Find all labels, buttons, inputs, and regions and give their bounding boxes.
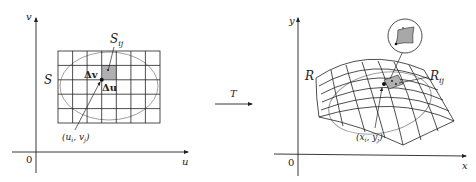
u-axis-label: u	[182, 156, 188, 167]
point-xi-yj	[382, 82, 386, 86]
transformation-t: T	[215, 88, 252, 104]
rij-dot-2	[395, 83, 397, 85]
x-axis-label: x	[462, 160, 468, 171]
point-ui-vj-label: (ui, vj)	[62, 132, 90, 144]
delta-u-label: Δu	[102, 82, 117, 93]
delta-v-label: Δv	[84, 69, 99, 80]
origin-label-right: 0	[288, 157, 294, 168]
rij-dot-1	[391, 80, 393, 82]
inset-rij-patch	[396, 27, 414, 44]
left-panel: v u 0 S Sij Δv Δu (ui, vj	[12, 11, 188, 173]
point-xi-yj-label: (xi, yj)	[356, 132, 383, 144]
inset-small-dot	[402, 27, 404, 29]
subregion-rij-cell	[384, 75, 403, 89]
subregion-sij-label: Sij	[110, 32, 124, 48]
x-axis	[274, 154, 466, 156]
v-axis-label: v	[26, 11, 32, 22]
t-label: T	[230, 88, 238, 99]
region-s-label: S	[44, 73, 52, 87]
origin-label-left: 0	[26, 154, 32, 165]
subregion-rij-label: Rij	[429, 69, 445, 85]
region-r-label: R	[304, 69, 314, 83]
sij-sample-dot	[107, 69, 109, 71]
inset-corner-dot	[395, 43, 398, 46]
right-panel: y x 0	[274, 15, 468, 176]
change-of-variables-diagram: v u 0 S Sij Δv Δu (ui, vj	[0, 0, 476, 182]
y-axis-label: y	[288, 15, 295, 26]
